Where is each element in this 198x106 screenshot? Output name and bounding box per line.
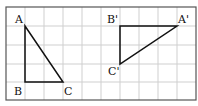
label-b: B: [14, 85, 22, 98]
label-c-prime: C': [108, 65, 119, 78]
label-a: A: [14, 13, 24, 26]
label-a-prime: A': [177, 13, 189, 26]
label-b-prime: B': [107, 13, 118, 26]
grid-lines: [6, 7, 196, 100]
label-c: C: [64, 85, 72, 98]
grid-diagram: A B C B' A' C': [0, 0, 198, 106]
